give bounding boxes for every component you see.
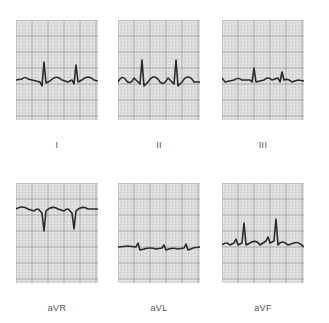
ecg-grid-paper [16, 20, 98, 120]
ecg-grid-paper [222, 20, 304, 120]
ecg-panel-i [16, 20, 98, 120]
ecg-panel-ii [118, 20, 200, 120]
ecg-panel-avf [222, 183, 304, 283]
lead-label-avf: aVF [222, 303, 304, 313]
ecg-grid-paper [16, 183, 98, 283]
ecg-panel-avl [118, 183, 200, 283]
lead-label-ii: II [118, 140, 200, 150]
ecg-panel-avr [16, 183, 98, 283]
lead-label-avr: aVR [16, 303, 98, 313]
ecg-grid-paper [118, 183, 200, 283]
lead-label-i: I [16, 140, 98, 150]
lead-label-iii: III [222, 140, 304, 150]
ecg-grid-paper [118, 20, 200, 120]
ecg-panel-iii [222, 20, 304, 120]
ecg-grid-paper [222, 183, 304, 283]
lead-label-avl: aVL [118, 303, 200, 313]
